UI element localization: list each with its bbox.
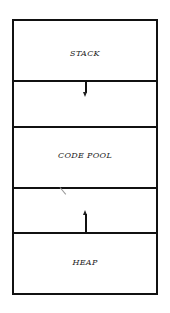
code-pool-label: CODE POOL (14, 151, 156, 160)
code-pool-top-divider (12, 126, 158, 128)
heap-divider (12, 232, 158, 234)
heap-arrow-line (85, 214, 87, 233)
memory-layout-diagram: STACK CODE POOL HEAP (0, 0, 170, 313)
heap-label: HEAP (14, 258, 156, 267)
code-pool-bottom-divider (12, 187, 158, 189)
arrow-down-icon (83, 92, 87, 97)
stack-label: STACK (14, 49, 156, 58)
